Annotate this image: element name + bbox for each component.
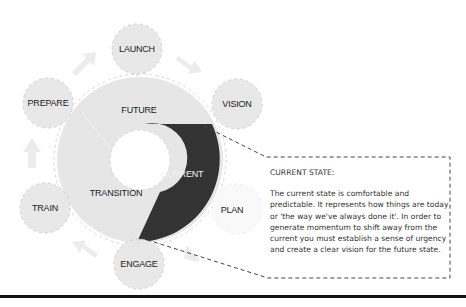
label-train: TRAIN <box>32 203 58 213</box>
label-transition: TRANSITION <box>90 188 143 198</box>
bottom-rule <box>0 295 466 298</box>
cycle-diagram <box>0 0 466 307</box>
label-engage: ENGAGE <box>120 259 157 269</box>
callout-body: The current state is comfortable and pre… <box>270 188 454 255</box>
label-plan: PLAN <box>221 205 244 215</box>
callout-box: CURRENT STATE: The current state is comf… <box>270 167 454 255</box>
label-launch: LAUNCH <box>119 44 155 54</box>
arrow-icon <box>176 56 202 74</box>
callout-title: CURRENT STATE: <box>270 167 454 178</box>
label-current: CURRENT <box>161 169 204 179</box>
label-vision: VISION <box>222 99 251 109</box>
label-prepare: PREPARE <box>28 98 69 108</box>
arrow-icon <box>72 52 96 76</box>
arrow-icon <box>72 240 98 258</box>
label-future: FUTURE <box>121 105 156 115</box>
ring-hole <box>110 130 170 190</box>
arrow-icon <box>23 138 41 168</box>
arrow-icon <box>184 246 200 262</box>
